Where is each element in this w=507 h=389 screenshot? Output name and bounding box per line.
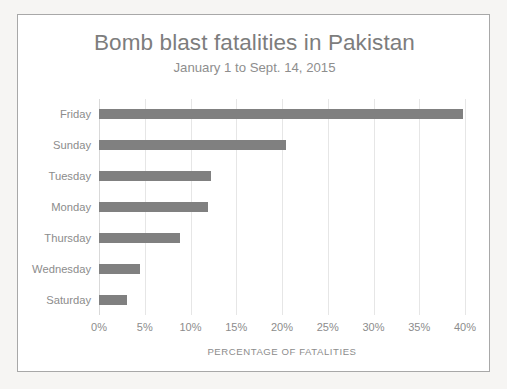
bar-thursday[interactable] [99, 233, 180, 243]
y-axis-label-sunday: Sunday [53, 137, 91, 154]
y-axis-label-monday: Monday [51, 199, 91, 216]
bar-row [99, 171, 465, 181]
y-axis-label-tuesday: Tuesday [49, 168, 92, 185]
bar-wednesday[interactable] [99, 264, 140, 274]
bar-row [99, 202, 465, 212]
x-tick-10pct: 10% [179, 321, 201, 333]
bar-row [99, 233, 465, 243]
bar-tuesday[interactable] [99, 171, 211, 181]
y-axis-label-saturday: Saturday [46, 292, 91, 309]
x-tick-15pct: 15% [225, 321, 247, 333]
bar-sunday[interactable] [99, 140, 286, 150]
y-axis-label-thursday: Thursday [44, 230, 91, 247]
bar-row [99, 140, 465, 150]
bar-row [99, 295, 465, 305]
y-axis-label-wednesday: Wednesday [32, 261, 91, 278]
bar-monday[interactable] [99, 202, 208, 212]
x-tick-30pct: 30% [362, 321, 384, 333]
bar-series [99, 99, 465, 315]
x-tick-5pct: 5% [137, 321, 153, 333]
x-tick-40pct: 40% [454, 321, 476, 333]
bar-row [99, 109, 465, 119]
bar-row [99, 264, 465, 274]
plot-area: FridaySundayTuesdayMondayThursdayWednesd… [99, 99, 465, 315]
x-tick-35pct: 35% [408, 321, 430, 333]
bar-saturday[interactable] [99, 295, 127, 305]
x-tick-0pct: 0% [91, 321, 107, 333]
screenshot-page: Bomb blast fatalities in Pakistan Januar… [0, 0, 507, 389]
x-tick-20pct: 20% [271, 321, 293, 333]
x-tick-25pct: 25% [317, 321, 339, 333]
chart-frame: Bomb blast fatalities in Pakistan Januar… [17, 14, 490, 372]
x-axis-title: PERCENTAGE OF FATALITIES [99, 346, 465, 357]
y-axis-label-friday: Friday [60, 106, 91, 123]
plot-wrapper: FridaySundayTuesdayMondayThursdayWednesd… [18, 15, 491, 373]
gridline-40pct [465, 99, 466, 315]
bar-friday[interactable] [99, 109, 463, 119]
